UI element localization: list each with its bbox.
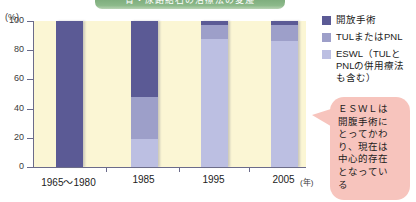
y-axis-tick-label: 80 — [0, 44, 24, 54]
x-axis-tick — [179, 167, 180, 172]
bars-layer — [34, 21, 306, 167]
x-axis-unit: (年) — [300, 176, 313, 187]
legend-label-tul: TULまたはPNL — [336, 31, 402, 43]
bar-segment-ESWLTULとPNLの併用療法も含む — [271, 41, 298, 167]
legend-item-tul: TULまたはPNL — [322, 31, 416, 43]
x-axis-tick — [106, 167, 107, 172]
y-axis-tick — [27, 109, 33, 110]
bar-2005 — [271, 21, 298, 167]
bar-segment-開放手術 — [131, 21, 158, 97]
legend-item-open: 開放手術 — [322, 14, 416, 26]
legend: 開放手術TULまたはPNLESWL（TULと PNLの併用療法 も含む） — [322, 14, 416, 89]
y-axis-tick-label: 100 — [0, 15, 24, 25]
y-axis-tick-label: 0 — [0, 161, 24, 171]
legend-swatch-open — [322, 16, 331, 25]
callout-text: ＥＳＷＬは 開腹手術に とってかわ り、現在は 中心的存在 となってい る — [338, 103, 404, 191]
bar-segment-開放手術 — [201, 21, 228, 25]
bar-segment-開放手術 — [271, 21, 298, 25]
chart-figure: 腎・尿路結石の治療法の変遷 (%) 020406080100 1965〜1980… — [0, 0, 416, 202]
bar-1985 — [131, 21, 158, 167]
y-axis-tick — [27, 138, 33, 139]
y-axis-tick-label: 20 — [0, 132, 24, 142]
bar-segment-TULまたはPNL — [201, 25, 228, 38]
x-axis-tick — [249, 167, 250, 172]
callout-bubble: ＥＳＷＬは 開腹手術に とってかわ り、現在は 中心的存在 となってい る — [330, 97, 410, 200]
bar-1995 — [201, 21, 228, 167]
legend-item-eswl: ESWL（TULと PNLの併用療法 も含む） — [322, 48, 416, 84]
y-axis-tick — [27, 79, 33, 80]
y-axis-tick — [27, 50, 33, 51]
y-axis-tick — [27, 167, 33, 168]
title-banner: 腎・尿路結石の治療法の変遷 — [95, 0, 285, 9]
x-axis-tick-label: 2005 — [239, 174, 329, 185]
legend-swatch-eswl — [322, 50, 331, 59]
y-axis-tick — [27, 21, 33, 22]
bar-segment-開放手術 — [56, 21, 83, 167]
bar-1965-1980 — [56, 21, 83, 167]
bar-segment-ESWLTULとPNLの併用療法も含む — [131, 139, 158, 167]
bar-segment-TULまたはPNL — [131, 97, 158, 139]
legend-swatch-tul — [322, 33, 331, 42]
plot-area — [33, 21, 306, 168]
legend-label-open: 開放手術 — [336, 14, 376, 26]
y-axis-tick-label: 40 — [0, 103, 24, 113]
legend-label-eswl: ESWL（TULと PNLの併用療法 も含む） — [336, 48, 404, 84]
banner-title: 腎・尿路結石の治療法の変遷 — [95, 0, 285, 6]
bar-segment-ESWLTULとPNLの併用療法も含む — [201, 39, 228, 167]
y-axis-tick-label: 60 — [0, 73, 24, 83]
bar-segment-TULまたはPNL — [271, 25, 298, 41]
